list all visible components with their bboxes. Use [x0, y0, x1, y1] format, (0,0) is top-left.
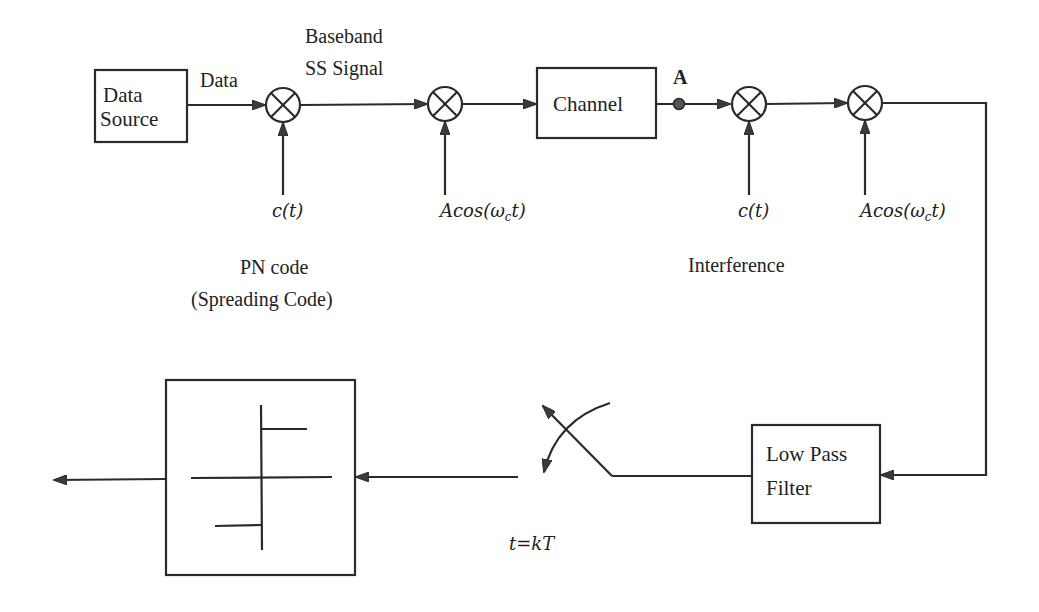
- multiplier-4-icon: [848, 86, 882, 120]
- demod-to-lpf-path: [881, 103, 986, 475]
- decision-device-block: [166, 380, 355, 575]
- despread-code-input-label: c(t): [738, 200, 769, 221]
- data-source-block: Data Source: [95, 70, 187, 142]
- pn-code-annotation-line2: (Spreading Code): [191, 288, 333, 311]
- baseband-ss-arrow: [300, 104, 427, 105]
- carrier-input-label-rx: Acos(ωct): [858, 200, 946, 224]
- threshold-function-icon: [191, 405, 332, 550]
- data-signal-label: Data: [200, 69, 238, 91]
- pn-code-input-label: c(t): [272, 200, 303, 221]
- data-source-label-line2: Source: [100, 107, 158, 131]
- lpf-label-line2: Filter: [766, 476, 812, 500]
- baseband-label-line2: SS Signal: [305, 57, 384, 80]
- block-diagram: Data Source Data c(t) Baseband SS Signal…: [0, 0, 1039, 612]
- point-a-dot-icon: [674, 99, 685, 110]
- sampling-time-label: t=kT: [509, 533, 556, 554]
- despread-to-demod-arrow: [766, 103, 847, 104]
- multiplier-2-icon: [428, 87, 462, 121]
- baseband-label-line1: Baseband: [305, 25, 383, 47]
- low-pass-filter-block: Low Pass Filter: [752, 425, 880, 523]
- sampling-switch-icon: [543, 403, 612, 476]
- pn-code-annotation-line1: PN code: [240, 256, 308, 278]
- lpf-label-line1: Low Pass: [766, 442, 847, 466]
- carrier-input-label-tx: Acos(ωct): [438, 200, 526, 224]
- data-source-label-line1: Data: [103, 83, 143, 107]
- multiplier-1-icon: [266, 88, 300, 122]
- output-arrow: [54, 479, 166, 480]
- point-a-label: A: [673, 66, 688, 88]
- interference-annotation: Interference: [688, 254, 785, 276]
- channel-block: Channel: [537, 68, 656, 138]
- multiplier-3-icon: [732, 87, 766, 121]
- channel-label: Channel: [553, 92, 623, 116]
